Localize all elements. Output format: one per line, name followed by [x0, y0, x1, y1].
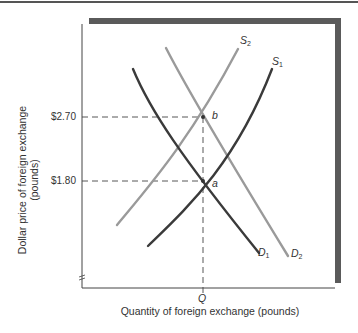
x-axis-label: Quantity of foreign exchange (pounds) — [90, 305, 330, 317]
curve-d1 — [133, 69, 259, 253]
label-s2: S2 — [240, 34, 251, 47]
y-axis-label: Dollar price of foreign exchange (pounds… — [16, 100, 40, 260]
point-b-marker — [201, 115, 205, 119]
label-s1: S1 — [272, 55, 283, 68]
curve-s1 — [148, 69, 272, 246]
label-d1: D1 — [258, 246, 270, 259]
label-point-a: a — [212, 177, 218, 189]
x-tick-q: Q — [198, 292, 206, 304]
curve-d2 — [166, 48, 288, 256]
plot-area — [0, 0, 358, 333]
label-point-b: b — [212, 109, 218, 121]
y-axis-label-line1: Dollar price of foreign exchange — [16, 100, 28, 260]
label-d2: D2 — [291, 247, 303, 260]
y-axis-label-line2: (pounds) — [28, 100, 40, 260]
point-a-marker — [201, 179, 205, 183]
